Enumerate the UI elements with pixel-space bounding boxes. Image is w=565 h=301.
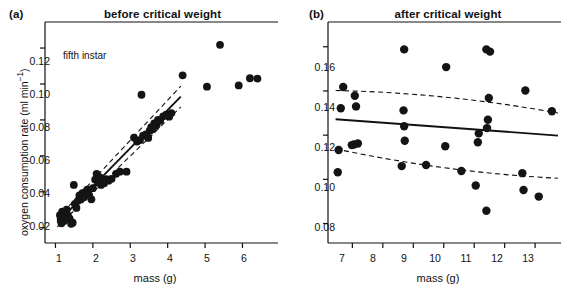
- data-point: [254, 75, 262, 83]
- data-point: [168, 109, 176, 117]
- data-point: [548, 107, 556, 115]
- data-point: [351, 92, 359, 100]
- data-point: [138, 91, 146, 99]
- data-point: [179, 71, 187, 79]
- data-point: [482, 207, 490, 215]
- data-point: [519, 186, 527, 194]
- data-point: [354, 139, 362, 147]
- data-point: [116, 168, 124, 176]
- data-point: [352, 102, 360, 110]
- data-point: [334, 146, 342, 154]
- data-point: [485, 94, 493, 102]
- data-point: [235, 82, 243, 90]
- data-point: [483, 124, 491, 132]
- data-point: [398, 162, 406, 170]
- data-point: [475, 129, 483, 137]
- data-point: [474, 138, 482, 146]
- data-point: [123, 168, 131, 176]
- panel-a-plot-area: [0, 0, 282, 301]
- regression-line: [336, 119, 558, 135]
- data-point: [73, 204, 81, 212]
- data-point: [518, 169, 526, 177]
- panel-a: (a) before critical weight oxygen consum…: [0, 0, 282, 301]
- data-point: [400, 45, 408, 53]
- data-point: [87, 195, 95, 203]
- data-point: [216, 41, 224, 49]
- data-point: [535, 192, 543, 200]
- data-point: [70, 181, 78, 189]
- data-point: [400, 122, 408, 130]
- data-point: [486, 47, 494, 55]
- data-point: [472, 181, 480, 189]
- data-point: [203, 83, 211, 91]
- data-point: [422, 161, 430, 169]
- panel-b: (b) after critical weight 0.16 0.14 0.12…: [283, 0, 565, 301]
- data-point: [399, 106, 407, 114]
- panel-b-plot-area: [283, 0, 565, 301]
- data-point: [457, 167, 465, 175]
- data-point: [401, 136, 409, 144]
- data-point: [442, 63, 450, 71]
- data-point: [484, 115, 492, 123]
- data-point: [89, 184, 97, 192]
- data-point: [334, 168, 342, 176]
- data-point: [441, 142, 449, 150]
- data-point: [339, 83, 347, 91]
- data-point: [144, 134, 152, 142]
- data-point: [246, 74, 254, 82]
- data-point: [69, 219, 77, 227]
- figure-root: (a) before critical weight oxygen consum…: [0, 0, 565, 301]
- data-point: [521, 86, 529, 94]
- data-point: [337, 104, 345, 112]
